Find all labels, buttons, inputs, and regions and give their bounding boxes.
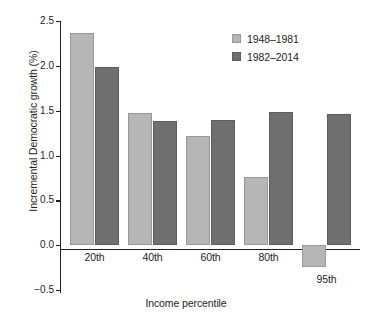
y-axis-tick-label: −0.5 xyxy=(23,284,54,295)
dark-gray-swatch-icon xyxy=(232,52,241,61)
bar xyxy=(269,112,293,246)
x-axis-title: Income percentile xyxy=(0,297,372,309)
y-axis-tick xyxy=(56,66,61,67)
bar xyxy=(128,113,152,245)
x-axis-category-label: 95th xyxy=(292,273,361,285)
y-axis-tick-label: 2.5 xyxy=(23,15,54,26)
y-axis-tick xyxy=(56,156,61,157)
legend: 1948–1981 1982–2014 xyxy=(232,31,299,67)
y-axis-tick-label: 2.0 xyxy=(23,59,54,70)
bar-chart: Incremental Democratic growth (%) 2.52.0… xyxy=(0,0,372,325)
y-axis-tick-label: 0.5 xyxy=(23,194,54,205)
y-axis-tick-label: 1.0 xyxy=(23,149,54,160)
bar xyxy=(186,136,210,245)
bar xyxy=(153,121,177,246)
legend-label: 1948–1981 xyxy=(247,33,299,45)
light-gray-swatch-icon xyxy=(232,34,241,43)
y-axis-tick-label: 1.5 xyxy=(23,104,54,115)
legend-item[interactable]: 1948–1981 xyxy=(232,31,299,46)
legend-label: 1982–2014 xyxy=(247,51,299,63)
y-axis-tick xyxy=(56,111,61,112)
y-axis-tick xyxy=(56,200,61,201)
x-axis-category-label: 80th xyxy=(234,251,303,263)
bar xyxy=(302,245,326,267)
bar xyxy=(211,120,235,246)
y-axis-tick xyxy=(56,245,61,246)
bar xyxy=(327,114,351,245)
y-axis-tick xyxy=(56,21,61,22)
y-axis-tick-label: 0.0 xyxy=(23,239,54,250)
bar xyxy=(70,33,94,246)
plot-area: 2.52.01.51.00.50.0−0.5 20th40th60th80th9… xyxy=(60,18,360,293)
y-axis-title: Incremental Democratic growth (%) xyxy=(27,21,39,241)
legend-item[interactable]: 1982–2014 xyxy=(232,49,299,64)
bar xyxy=(95,67,119,245)
y-axis-tick xyxy=(56,290,61,291)
bar xyxy=(244,177,268,245)
